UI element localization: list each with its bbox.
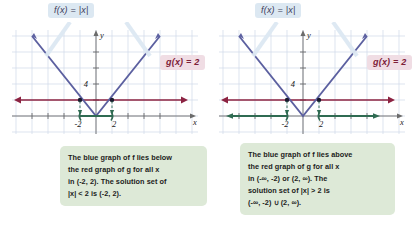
absolute-value-inequality-figure: -2 2 4 x y f(x) = |x| g(x) = 2 The blue … <box>0 0 414 238</box>
x-tick-label-pos2: 2 <box>319 119 324 129</box>
caption-line: in (-∞, -2) or (2, ∞). The <box>248 173 388 185</box>
y-axis <box>300 30 306 134</box>
caption-line: The blue graph of f lies below <box>68 152 200 164</box>
x-axis-label: x <box>399 117 404 127</box>
label-function-g: g(x) = 2 <box>160 55 205 70</box>
red-line-g <box>221 97 395 104</box>
caption-line: The blue graph of f lies above <box>248 149 388 161</box>
coordinate-plane-left: -2 2 4 x y <box>10 22 198 134</box>
x-tick-label-neg2: -2 <box>74 119 82 129</box>
caption-line: (-∞, -2) ∪ (2, ∞). <box>248 197 388 209</box>
solution-ray-left <box>226 112 288 121</box>
label-function-f: f(x) = |x| <box>48 3 94 18</box>
y-axis-label: y <box>99 30 104 40</box>
red-line-g <box>14 97 188 104</box>
caption-greater-than: The blue graph of f lies above the red g… <box>240 143 395 215</box>
label-function-g: g(x) = 2 <box>367 55 412 70</box>
coordinate-plane-right: -2 2 4 x y <box>217 22 405 134</box>
graph-left: -2 2 4 x y <box>10 22 198 134</box>
caption-line: |x| < 2 is (-2, 2). <box>68 188 200 200</box>
caption-line: in (-2, 2). The solution set of <box>68 176 200 188</box>
y-axis-label: y <box>306 30 311 40</box>
panel-less-than: -2 2 4 x y f(x) = |x| g(x) = 2 The blue … <box>0 0 207 238</box>
caption-less-than: The blue graph of f lies below the red g… <box>60 146 207 206</box>
panel-greater-than: -2 2 4 x y f(x) = |x| g(x) = 2 The blue … <box>207 0 414 238</box>
caption-line: the red graph of g for all x <box>248 161 388 173</box>
solution-ray-right <box>318 112 380 121</box>
caption-line: the red graph of g for all x <box>68 164 200 176</box>
caption-line: solution set of |x| > 2 is <box>248 185 388 197</box>
x-tick-label-pos2: 2 <box>112 119 117 129</box>
y-axis <box>93 30 99 134</box>
x-axis-label: x <box>192 117 197 127</box>
graph-right: -2 2 4 x y <box>217 22 405 134</box>
label-function-f: f(x) = |x| <box>255 3 301 18</box>
x-tick-label-neg2: -2 <box>281 119 289 129</box>
